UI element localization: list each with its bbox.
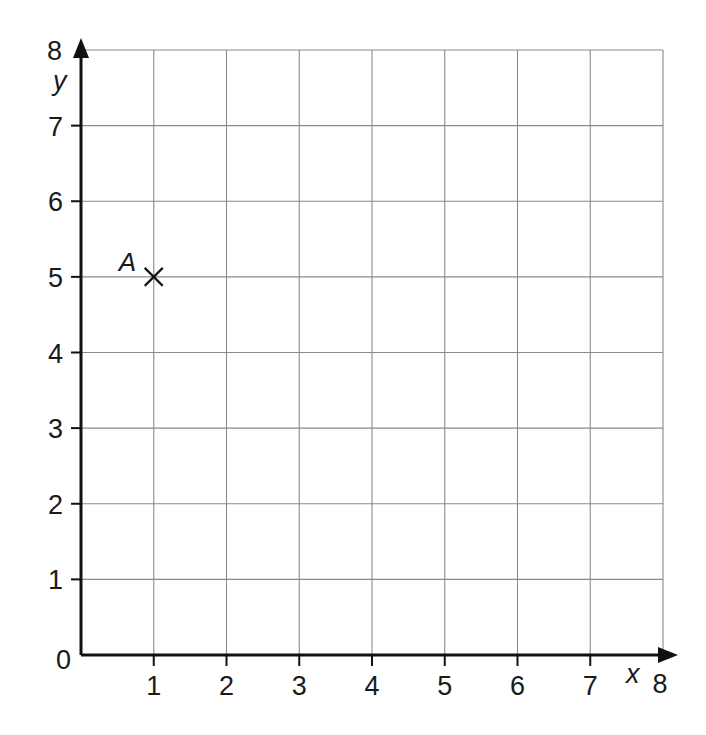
grid-lines [81, 50, 663, 655]
y-axis-arrow-icon [73, 38, 89, 58]
point-label: A [117, 247, 136, 277]
plotted-points: A [117, 247, 163, 286]
y-tick-label: 2 [48, 490, 63, 520]
axes [73, 38, 678, 663]
y-tick-label: 7 [48, 112, 63, 142]
y-tick-label: 6 [48, 187, 63, 217]
x-axis-arrow-icon [658, 647, 678, 663]
x-tick-label: 5 [437, 671, 452, 701]
x-axis-label: x [624, 659, 641, 689]
tick-marks [71, 126, 590, 666]
tick-labels: 12345678123456780 [47, 36, 668, 701]
x-tick-label: 4 [364, 671, 379, 701]
y-tick-label: 1 [48, 565, 63, 595]
y-tick-label: 3 [48, 414, 63, 444]
y-tick-label: 4 [48, 339, 63, 369]
x-tick-label: 6 [510, 671, 525, 701]
point-marker: A [117, 247, 163, 286]
x-tick-label: 8 [652, 669, 667, 699]
origin-label: 0 [56, 645, 71, 675]
x-tick-label: 7 [583, 671, 598, 701]
x-tick-label: 2 [219, 671, 234, 701]
coordinate-grid: 12345678123456780 A x y [0, 0, 706, 735]
y-tick-label: 5 [48, 263, 63, 293]
y-tick-label: 8 [47, 36, 62, 66]
x-tick-label: 3 [292, 671, 307, 701]
y-axis-label: y [51, 66, 68, 96]
x-tick-label: 1 [146, 671, 161, 701]
